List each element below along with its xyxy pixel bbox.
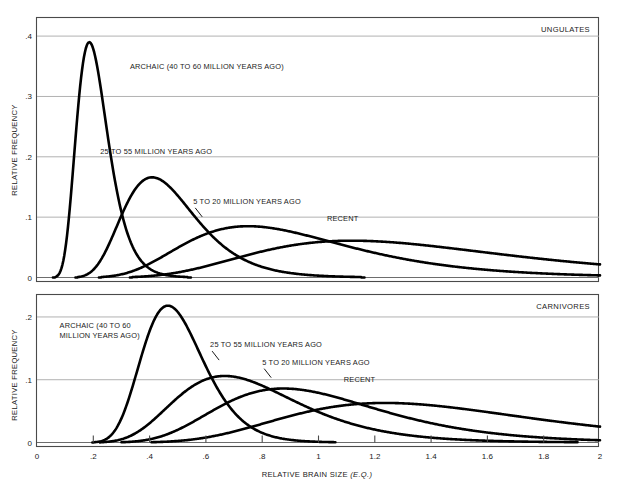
x-axis-title: RELATIVE BRAIN SIZE (E.Q.) bbox=[262, 470, 373, 479]
panel-title-ungulates: UNGULATES bbox=[541, 25, 590, 34]
two-panel-distribution-chart: 0.1.2.3.4 ARCHAIC (40 TO 60 MILLION YEAR… bbox=[0, 0, 617, 484]
series-label-2: 25 TO 55 MILLION YEARS AGO bbox=[100, 147, 212, 156]
y-tick-label: .2 bbox=[25, 153, 32, 162]
series-label-4: RECENT bbox=[327, 214, 359, 223]
series-label-1: ARCHAIC (40 TO 60 bbox=[60, 321, 131, 330]
panel-ungulates: 0.1.2.3.4 ARCHAIC (40 TO 60 MILLION YEAR… bbox=[10, 18, 600, 283]
x-tick-label: 1.6 bbox=[482, 452, 494, 461]
series-label-1: ARCHAIC (40 TO 60 MILLION YEARS AGO) bbox=[130, 62, 284, 71]
y-axis-title-bottom: RELATIVE FREQUENCY bbox=[10, 329, 19, 420]
y-tick-label: .1 bbox=[25, 376, 32, 385]
x-tick-label: .4 bbox=[146, 452, 153, 461]
x-tick-label: .8 bbox=[259, 452, 266, 461]
x-axis-tick-labels: 0.2.4.6.811.21.41.61.82 bbox=[35, 452, 603, 461]
y-tick-label: .2 bbox=[25, 313, 32, 322]
y-tick-label: .3 bbox=[25, 92, 32, 101]
x-tick-label: .2 bbox=[90, 452, 97, 461]
x-tick-label: 2 bbox=[598, 452, 603, 461]
panel-title-carnivores: CARNIVORES bbox=[536, 302, 590, 311]
series-label-1-line2: MILLION YEARS AGO) bbox=[60, 331, 140, 340]
panel-carnivores: 0.1.2 ARCHAIC (40 TO 60MILLION YEARS AGO… bbox=[10, 295, 600, 448]
y-tick-label: 0 bbox=[28, 439, 33, 448]
series-label-3: 5 TO 20 MILLION YEARS AGO bbox=[193, 197, 301, 206]
figure-container: 0.1.2.3.4 ARCHAIC (40 TO 60 MILLION YEAR… bbox=[0, 0, 617, 484]
y-axis-title-top: RELATIVE FREQUENCY bbox=[10, 104, 19, 195]
x-tick-label: 1.2 bbox=[369, 452, 381, 461]
series-label-4: RECENT bbox=[344, 375, 376, 384]
y-tick-label: .4 bbox=[25, 32, 32, 41]
x-tick-label: 1.4 bbox=[426, 452, 438, 461]
x-tick-label: 1.8 bbox=[538, 452, 550, 461]
panel-ungulates-y-tick-labels: 0.1.2.3.4 bbox=[25, 32, 32, 282]
panel-carnivores-y-tick-labels: 0.1.2 bbox=[25, 313, 32, 448]
y-tick-label: .1 bbox=[25, 213, 32, 222]
x-tick-label: 0 bbox=[35, 452, 40, 461]
x-tick-label: .6 bbox=[203, 452, 210, 461]
series-label-2: 25 TO 55 MILLION YEARS AGO bbox=[210, 340, 322, 349]
series-label-3: 5 TO 20 MILLION YEARS AGO bbox=[262, 358, 370, 367]
y-tick-label: 0 bbox=[28, 274, 33, 283]
x-tick-label: 1 bbox=[316, 452, 321, 461]
